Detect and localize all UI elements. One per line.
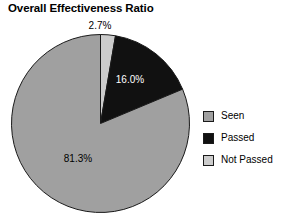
chart-legend: Seen Passed Not Passed [203, 105, 287, 171]
legend-label-not-passed: Not Passed [221, 155, 273, 165]
legend-swatch-seen [203, 111, 214, 122]
legend-label-seen: Seen [221, 111, 244, 121]
legend-swatch-not-passed [203, 155, 214, 166]
slice-label-seen: 81.3% [64, 153, 92, 164]
legend-label-passed: Passed [221, 133, 254, 143]
pie-chart-figure: Overall Effectiveness Ratio 2.7% 16.0% 8… [0, 0, 287, 222]
legend-swatch-passed [203, 133, 214, 144]
slice-label-passed: 16.0% [116, 74, 144, 85]
legend-item-not-passed[interactable]: Not Passed [203, 149, 287, 171]
pie-slices [12, 35, 190, 213]
legend-item-passed[interactable]: Passed [203, 127, 287, 149]
slice-label-not-passed: 2.7% [89, 20, 112, 31]
legend-item-seen[interactable]: Seen [203, 105, 287, 127]
